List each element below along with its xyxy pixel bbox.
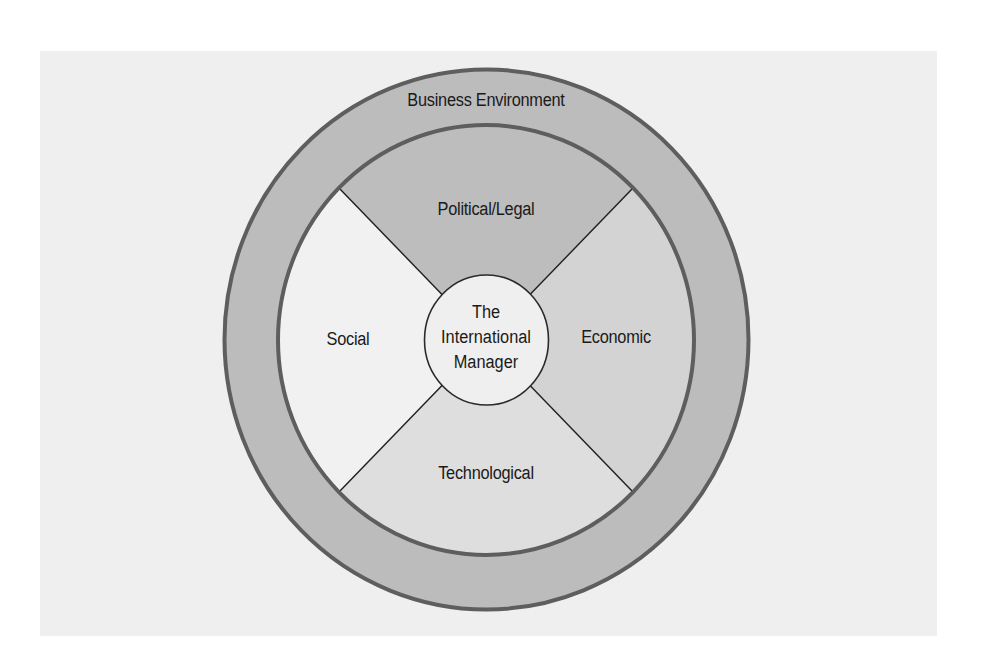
label-business-environment: Business Environment (407, 89, 565, 110)
label-social: Social (327, 328, 370, 349)
center-label-line-3: Manager (454, 351, 519, 372)
center-label-line-2: International (441, 326, 531, 347)
business-environment-diagram: Business Environment Political/Legal Eco… (0, 0, 986, 671)
label-technological: Technological (438, 462, 534, 483)
label-political-legal: Political/Legal (438, 198, 535, 219)
center-label-line-1: The (472, 301, 500, 322)
label-economic: Economic (581, 326, 651, 347)
